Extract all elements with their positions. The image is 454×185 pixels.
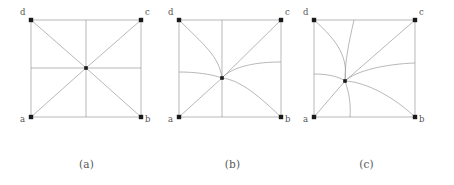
edge-b-center-c (345, 81, 415, 117)
mesh-diagram-a (11, 0, 162, 155)
vertex-label-d: d (168, 8, 173, 17)
vertex-marker-c (413, 18, 417, 22)
vertex-label-a: a (303, 115, 308, 124)
vertex-marker-c (279, 18, 283, 22)
edge-rightmid-center-b (222, 62, 281, 78)
mesh-diagram-c (291, 0, 442, 155)
vertex-label-c: c (419, 8, 424, 17)
figure-panel-b: a b c d (b) (157, 0, 308, 185)
figure-panel-a: a b c d (a) (11, 0, 162, 185)
vertex-marker-center (343, 79, 347, 83)
vertex-label-a: a (168, 115, 173, 124)
edge-d-center-a (31, 20, 86, 68)
edge-b-center-a (86, 68, 141, 117)
vertex-marker-b (139, 115, 143, 119)
edge-a-center-b (179, 78, 222, 117)
figure-panels-row: a b c d (a) (0, 0, 454, 185)
vertex-marker-a (177, 115, 181, 119)
vertex-label-a: a (20, 115, 25, 124)
vertex-label-b: b (285, 115, 290, 124)
vertex-marker-d (312, 18, 316, 22)
vertex-marker-d (177, 18, 181, 22)
edge-bottommid-center-c (345, 81, 350, 117)
mesh-diagram-b (157, 0, 308, 155)
edge-b-center-b (222, 78, 281, 117)
vertex-label-c: c (285, 8, 290, 17)
vertex-label-c: c (145, 8, 150, 17)
edge-topmid-center-c (345, 20, 354, 81)
vertex-marker-center (84, 66, 88, 70)
vertex-marker-d (29, 18, 33, 22)
edge-d-center-c (314, 20, 346, 81)
vertex-marker-a (29, 115, 33, 119)
vertex-label-b: b (145, 115, 150, 124)
edge-leftmid-center-b (179, 72, 222, 78)
vertex-marker-b (279, 115, 283, 119)
panel-caption-a: (a) (11, 158, 162, 170)
edge-c-center-a (86, 20, 141, 68)
edge-d-center-b (179, 20, 222, 78)
vertex-label-d: d (20, 8, 25, 17)
edge-leftmid-center-c (314, 74, 345, 81)
vertex-marker-a (312, 115, 316, 119)
vertex-label-b: b (419, 115, 424, 124)
edge-a-center-c (314, 81, 345, 117)
edge-c-center-b (222, 20, 281, 78)
vertex-marker-center (220, 76, 224, 80)
panel-caption-c: (c) (291, 158, 442, 170)
vertex-label-d: d (303, 8, 308, 17)
edge-a-center-a (31, 68, 86, 117)
figure-panel-c: a b c d (c) (291, 0, 442, 185)
panel-caption-b: (b) (157, 158, 308, 170)
edge-c-center-c (345, 20, 415, 81)
vertex-marker-c (139, 18, 143, 22)
vertex-marker-b (413, 115, 417, 119)
